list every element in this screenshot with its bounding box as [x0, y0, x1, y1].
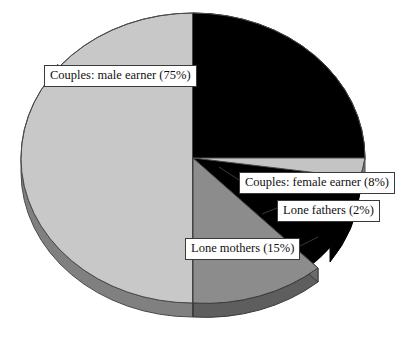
- pie-chart-figure: Couples: male earner (75%) Couples: fema…: [0, 0, 415, 351]
- slice-female-earner: [193, 13, 365, 158]
- slice-label-lone-mothers: Lone mothers (15%): [185, 238, 300, 260]
- slice-label-male-earner: Couples: male earner (75%): [44, 65, 197, 87]
- slice-male-earner: [21, 13, 193, 303]
- slice-label-female-earner: Couples: female earner (8%): [239, 172, 395, 194]
- slice-label-lone-fathers: Lone fathers (2%): [277, 200, 380, 222]
